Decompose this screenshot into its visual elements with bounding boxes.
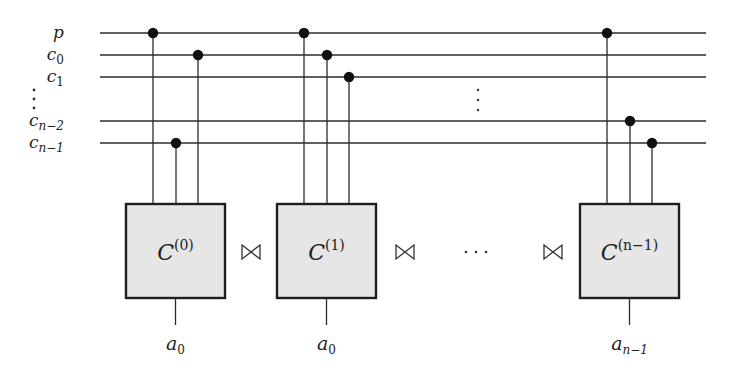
wire-label-sub: 0: [56, 53, 64, 67]
control-dot-cn2: [625, 116, 635, 126]
block-ellipsis: [465, 251, 488, 254]
join-symbol-2: [544, 245, 562, 259]
control-dot-p: [148, 28, 158, 38]
wire-label-cn2: cn−2: [29, 110, 64, 133]
output-label-sub: 0: [328, 343, 336, 357]
wire-label-cn1: cn−1: [29, 132, 64, 155]
wire-label-base: c: [29, 132, 39, 152]
wire-label-sub: n−2: [39, 119, 64, 133]
wire-label-base: p: [53, 22, 64, 42]
control-dot-p: [602, 28, 612, 38]
block-label-base: C: [308, 240, 325, 265]
wire-ellipsis-left: [33, 89, 36, 110]
wire-label-base: c: [29, 110, 39, 130]
control-dot-p: [299, 28, 309, 38]
wire-label-sub: 1: [56, 75, 64, 89]
wire-label-c0: c0: [47, 44, 64, 67]
block-label-base: C: [601, 240, 618, 265]
block-label-base: C: [157, 240, 174, 265]
wire-label-p: p: [53, 22, 64, 42]
circuit-diagram: pc0c1cn−2cn−1 C(0)a0C(1)a0C(n−1)an−1: [0, 0, 741, 373]
output-label-base: a: [166, 332, 177, 354]
output-label-base: a: [317, 332, 328, 354]
control-dot-cn1: [647, 138, 657, 148]
output-label: a0: [317, 332, 336, 357]
wire-label-base: c: [47, 66, 57, 86]
control-dot-cn1: [171, 138, 181, 148]
output-label: a0: [166, 332, 185, 357]
output-label-base: a: [611, 332, 622, 354]
wire-label-sub: n−1: [39, 141, 64, 155]
control-dot-c0: [193, 50, 203, 60]
control-dot-c1: [344, 72, 354, 82]
output-label-sub: 0: [177, 343, 185, 357]
block-label-sup: (1): [325, 237, 345, 253]
wire-label-base: c: [47, 44, 57, 64]
join-symbol-0: [242, 245, 260, 259]
output-label: an−1: [611, 332, 648, 357]
wire-label-group: pc0c1cn−2cn−1: [29, 22, 64, 155]
block-label-sup: (n−1): [618, 237, 659, 253]
wire-ellipsis-middle: [477, 89, 479, 111]
wire-label-c1: c1: [47, 66, 64, 89]
output-label-sub: n−1: [622, 343, 647, 357]
wire-group: [100, 33, 706, 143]
block-label-sup: (0): [174, 237, 194, 253]
join-symbol-1: [396, 245, 414, 259]
control-dot-c0: [322, 50, 332, 60]
